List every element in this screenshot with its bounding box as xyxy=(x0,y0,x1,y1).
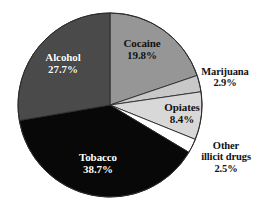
slice-label-opiates: Opiates 8.4% xyxy=(153,102,211,126)
slice-label-marijuana: Marijuana 2.9% xyxy=(193,66,257,89)
slice-label-opiates-value: 8.4% xyxy=(153,114,211,126)
slice-label-cocaine-value: 19.8% xyxy=(106,50,178,62)
slice-label-marijuana-name: Marijuana xyxy=(193,66,257,77)
slice-label-tobacco: Tobacco 38.7% xyxy=(63,152,133,176)
pie-chart-figure: Alcohol 27.7% Cocaine 19.8% Marijuana 2.… xyxy=(0,0,258,214)
pie-chart-canvas xyxy=(0,0,258,214)
slice-label-other-illicit-drugs-value: 2.5% xyxy=(196,163,256,174)
slice-label-alcohol-value: 27.7% xyxy=(26,64,100,76)
slice-label-marijuana-value: 2.9% xyxy=(193,77,257,88)
slice-label-cocaine: Cocaine 19.8% xyxy=(106,38,178,62)
slice-label-other-illicit-drugs-name-line2: illicit drugs xyxy=(196,151,256,162)
slice-label-tobacco-value: 38.7% xyxy=(63,164,133,176)
slice-label-alcohol: Alcohol 27.7% xyxy=(26,52,100,76)
slice-label-other-illicit-drugs: Other illicit drugs 2.5% xyxy=(196,140,256,174)
slice-label-other-illicit-drugs-name-line1: Other xyxy=(196,140,256,151)
